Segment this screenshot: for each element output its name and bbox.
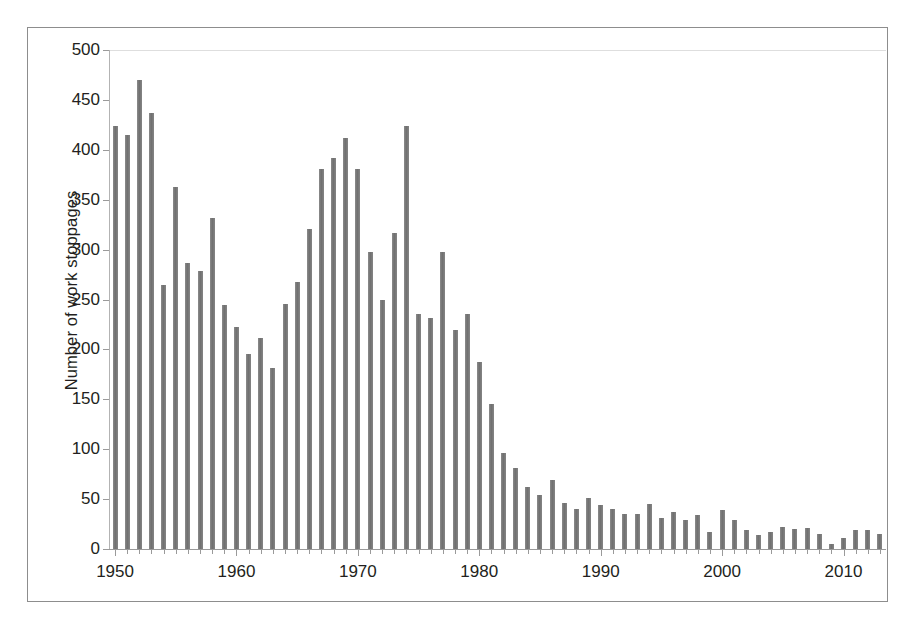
y-tick-label: 50 (81, 489, 100, 509)
x-tick-mark (431, 549, 432, 554)
bar (513, 468, 518, 549)
bar (355, 169, 360, 549)
bar (258, 338, 263, 549)
bar (659, 518, 664, 549)
bar (161, 285, 166, 549)
bar (319, 169, 324, 549)
x-tick-mark (212, 549, 213, 554)
bar (537, 495, 542, 549)
bar (185, 263, 190, 549)
x-tick-mark (309, 549, 310, 554)
x-tick-mark (504, 549, 505, 554)
bar (380, 300, 385, 550)
x-tick-mark (115, 549, 116, 556)
x-tick-mark (807, 549, 808, 554)
x-tick-mark (771, 549, 772, 554)
x-tick-mark (856, 549, 857, 554)
x-tick-mark (710, 549, 711, 554)
x-tick-mark (540, 549, 541, 554)
bar (343, 138, 348, 549)
x-tick-mark (176, 549, 177, 554)
x-tick-mark (200, 549, 201, 554)
bar (113, 126, 118, 549)
y-tick-label: 450 (72, 90, 100, 110)
x-tick-mark (249, 549, 250, 554)
bar (173, 187, 178, 549)
x-tick-mark (224, 549, 225, 554)
bar (428, 318, 433, 549)
x-tick-label: 2000 (703, 562, 741, 582)
x-tick-mark (394, 549, 395, 554)
x-tick-mark (516, 549, 517, 554)
bar (647, 504, 652, 549)
bar (853, 530, 858, 549)
bar (270, 368, 275, 549)
x-tick-mark (880, 549, 881, 554)
bar (695, 515, 700, 549)
bar (246, 354, 251, 549)
bar (780, 527, 785, 549)
bar (562, 503, 567, 549)
x-tick-mark (127, 549, 128, 554)
bar (440, 252, 445, 549)
x-tick-mark (321, 549, 322, 554)
x-tick-mark (346, 549, 347, 554)
bar (149, 113, 154, 549)
x-tick-mark (297, 549, 298, 554)
x-tick-mark (698, 549, 699, 554)
x-tick-mark (151, 549, 152, 554)
bar (768, 532, 773, 549)
x-tick-label: 1970 (339, 562, 377, 582)
x-axis-line (109, 549, 886, 550)
x-tick-mark (552, 549, 553, 554)
figure-frame: Number of work stoppages 050100150200250… (27, 27, 888, 602)
bar (865, 530, 870, 549)
y-tick-label: 200 (72, 339, 100, 359)
bar (137, 80, 142, 549)
x-tick-mark (479, 549, 480, 556)
x-tick-label: 1960 (218, 562, 256, 582)
bar (610, 509, 615, 549)
y-tick-label: 300 (72, 240, 100, 260)
bar (732, 520, 737, 549)
bar (234, 327, 239, 549)
x-tick-mark (686, 549, 687, 554)
bar (720, 510, 725, 549)
x-tick-mark (783, 549, 784, 554)
x-tick-mark (734, 549, 735, 554)
bar (283, 304, 288, 550)
chart-page: Number of work stoppages 050100150200250… (0, 0, 915, 632)
x-tick-mark (625, 549, 626, 554)
x-tick-mark (406, 549, 407, 554)
bar (525, 487, 530, 549)
x-tick-mark (637, 549, 638, 554)
x-tick-mark (455, 549, 456, 554)
x-tick-mark (528, 549, 529, 554)
bar (465, 314, 470, 549)
x-tick-mark (370, 549, 371, 554)
x-tick-mark (334, 549, 335, 554)
x-tick-mark (564, 549, 565, 554)
bar (477, 362, 482, 549)
x-tick-mark (674, 549, 675, 554)
bar (586, 498, 591, 549)
x-tick-mark (589, 549, 590, 554)
y-tick-label: 250 (72, 290, 100, 310)
bar (805, 528, 810, 549)
bar (550, 480, 555, 549)
x-tick-mark (261, 549, 262, 554)
x-tick-mark (236, 549, 237, 556)
bar (683, 520, 688, 549)
x-tick-mark (285, 549, 286, 554)
bar (198, 271, 203, 549)
bar (392, 233, 397, 549)
bar (574, 509, 579, 549)
x-tick-mark (795, 549, 796, 554)
bar (404, 126, 409, 549)
x-tick-mark (819, 549, 820, 554)
bar (222, 305, 227, 550)
bar (756, 535, 761, 549)
bar (295, 282, 300, 549)
bars-layer (109, 50, 886, 549)
x-tick-mark (139, 549, 140, 554)
